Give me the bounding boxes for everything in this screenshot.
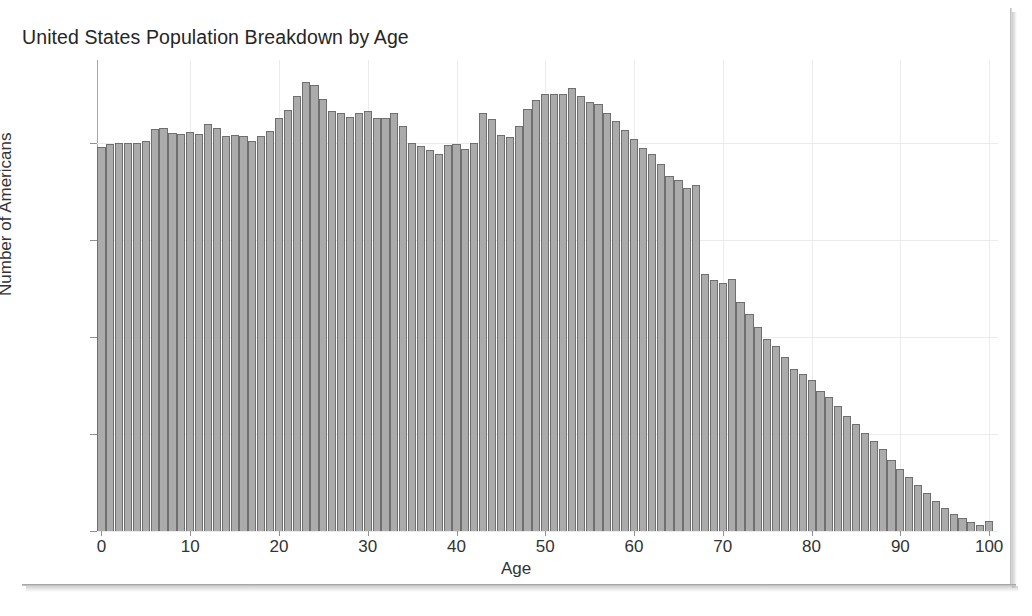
bar-age-70 (719, 283, 727, 531)
bar-age-91 (905, 477, 913, 531)
bar-age-11 (195, 134, 203, 531)
bar-age-93 (923, 493, 931, 531)
bar-age-45 (497, 135, 505, 531)
y-tick-mark-2M (90, 337, 97, 338)
bar-age-67 (692, 185, 700, 531)
bar-age-87 (870, 441, 878, 531)
bar-age-64 (665, 176, 673, 531)
bar-age-90 (896, 469, 904, 531)
chart-title: United States Population Breakdown by Ag… (22, 26, 409, 49)
x-axis-title: Age (0, 559, 1032, 579)
bar-age-59 (621, 130, 629, 531)
x-tick-mark-10 (190, 531, 191, 536)
bar-age-36 (417, 146, 425, 531)
bar-age-21 (284, 110, 292, 531)
plot-area (97, 60, 998, 531)
bar-age-84 (843, 416, 851, 531)
x-tick-label-10: 10 (181, 537, 200, 557)
x-tick-mark-50 (545, 531, 546, 536)
bar-age-62 (648, 154, 656, 531)
bar-age-15 (231, 135, 239, 531)
x-tick-label-40: 40 (447, 537, 466, 557)
bar-age-10 (186, 132, 194, 531)
bar-age-54 (577, 96, 585, 531)
bar-age-29 (355, 113, 363, 531)
bar-age-71 (728, 279, 736, 531)
bar-age-51 (550, 94, 558, 531)
bar-age-1 (106, 144, 114, 531)
bar-age-22 (293, 96, 301, 531)
bar-age-65 (674, 180, 682, 531)
bar-age-85 (852, 424, 860, 531)
bar-age-75 (763, 339, 771, 531)
bar-age-55 (586, 102, 594, 531)
bar-age-92 (914, 485, 922, 531)
bar-age-25 (319, 99, 327, 531)
bar-age-28 (346, 117, 354, 531)
bar-age-26 (328, 111, 336, 531)
x-tick-mark-70 (723, 531, 724, 536)
bar-age-24 (310, 85, 318, 531)
bar-age-74 (754, 327, 762, 531)
y-tick-mark-3M (90, 240, 97, 241)
bar-age-31 (373, 118, 381, 531)
bar-age-97 (958, 518, 966, 531)
bar-age-27 (337, 113, 345, 531)
bar-age-98 (967, 522, 975, 531)
bar-age-58 (612, 121, 620, 531)
bar-age-79 (799, 374, 807, 531)
bar-age-43 (479, 113, 487, 531)
scanned-page: United States Population Breakdown by Ag… (0, 0, 1032, 616)
bar-age-66 (683, 188, 691, 531)
bar-age-18 (257, 136, 265, 531)
x-tick-label-100: 100 (975, 537, 1003, 557)
x-tick-label-0: 0 (97, 537, 106, 557)
bar-age-3 (124, 143, 132, 531)
bar-age-47 (515, 126, 523, 531)
x-tick-label-90: 90 (891, 537, 910, 557)
bar-age-37 (426, 150, 434, 531)
bar-age-78 (790, 369, 798, 531)
bar-age-56 (594, 104, 602, 531)
bar-age-16 (239, 136, 247, 531)
bar-age-83 (834, 406, 842, 531)
x-tick-mark-40 (457, 531, 458, 536)
bar-age-100 (985, 521, 993, 531)
bar-age-80 (808, 380, 816, 531)
bar-age-50 (541, 94, 549, 531)
x-axis-line (97, 531, 998, 532)
bar-age-4 (133, 143, 141, 531)
bar-age-12 (204, 124, 212, 531)
bar-age-19 (266, 131, 274, 531)
y-axis-title: Number of Americans (0, 133, 16, 296)
x-tick-mark-100 (989, 531, 990, 536)
bar-age-30 (364, 111, 372, 531)
bar-age-81 (816, 391, 824, 531)
bar-age-14 (222, 136, 230, 531)
bar-age-72 (736, 302, 744, 531)
bar-age-38 (435, 154, 443, 531)
bar-age-89 (887, 460, 895, 531)
bar-age-68 (701, 274, 709, 531)
bar-age-35 (408, 143, 416, 531)
x-tick-label-50: 50 (536, 537, 555, 557)
bar-age-33 (390, 113, 398, 531)
x-tick-mark-30 (368, 531, 369, 536)
bar-age-13 (213, 128, 221, 531)
x-tick-label-30: 30 (358, 537, 377, 557)
x-tick-label-60: 60 (625, 537, 644, 557)
bar-age-88 (879, 449, 887, 531)
bar-age-86 (861, 433, 869, 531)
bar-age-39 (444, 145, 452, 531)
bar-age-94 (932, 501, 940, 531)
x-tick-label-80: 80 (802, 537, 821, 557)
x-tick-label-20: 20 (270, 537, 289, 557)
bar-age-32 (381, 118, 389, 531)
x-tick-mark-0 (101, 531, 102, 536)
bar-age-77 (781, 357, 789, 531)
bar-age-95 (941, 508, 949, 531)
bar-age-82 (825, 397, 833, 531)
page-edge-bottom-shadow (26, 586, 1018, 592)
y-tick-mark-4M (90, 143, 97, 144)
bar-age-96 (950, 514, 958, 531)
